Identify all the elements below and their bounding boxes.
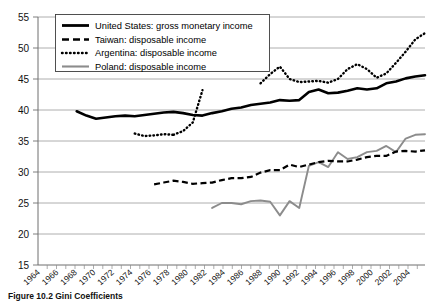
x-tick-label: 1986	[225, 267, 246, 287]
x-tick-label: 2002	[373, 267, 394, 287]
y-tick-label: 25	[18, 198, 30, 209]
figure-caption: Figure 10.2 Gini Coefficients	[8, 291, 123, 301]
x-tick-label: 1980	[169, 267, 190, 287]
y-axis-tick-labels: 55 50 45 40 35 30 25 20 15	[18, 12, 30, 271]
legend: United States: gross monetary income Tai…	[56, 15, 270, 72]
y-tick-label: 20	[18, 229, 30, 240]
x-tick-label: 1974	[114, 267, 135, 287]
x-tick-label: 1990	[262, 267, 283, 287]
y-tick-label: 35	[18, 136, 30, 147]
y-axis-ticks	[33, 17, 38, 265]
x-tick-label: 2004	[391, 267, 412, 287]
x-tick-label: 1966	[40, 267, 61, 287]
y-tick-label: 55	[18, 12, 30, 23]
x-tick-label: 1982	[188, 267, 209, 287]
x-tick-label: 1998	[336, 267, 357, 287]
y-tick-label: 15	[18, 260, 30, 271]
legend-label: United States: gross monetary income	[95, 21, 253, 31]
line-chart: 55 50 45 40 35 30 25 20 15	[0, 0, 437, 305]
y-tick-label: 45	[18, 74, 30, 85]
x-axis-minor-ticks	[47, 265, 417, 269]
x-tick-label: 1996	[317, 267, 338, 287]
y-tick-label: 40	[18, 105, 30, 116]
x-tick-label: 1984	[206, 267, 227, 287]
x-tick-label: 1992	[280, 267, 301, 287]
x-tick-label: 1976	[132, 267, 153, 287]
y-tick-label: 30	[18, 167, 30, 178]
x-tick-label: 1970	[77, 267, 98, 287]
x-tick-label: 1988	[243, 267, 264, 287]
x-tick-label: 1972	[95, 267, 116, 287]
x-axis-tick-labels: 1964 1966 1968 1970 1972 1974 1976 1978 …	[21, 267, 412, 287]
legend-label: Poland: disposable income	[95, 62, 206, 72]
legend-label: Taiwan: disposable income	[95, 35, 206, 45]
y-tick-label: 50	[18, 43, 30, 54]
legend-label: Argentina: disposable income	[95, 48, 217, 58]
x-tick-label: 1978	[151, 267, 172, 287]
x-tick-label: 1968	[58, 267, 79, 287]
x-tick-label: 2000	[354, 267, 375, 287]
x-tick-label: 1994	[299, 267, 320, 287]
chart-figure: 55 50 45 40 35 30 25 20 15	[0, 0, 437, 305]
